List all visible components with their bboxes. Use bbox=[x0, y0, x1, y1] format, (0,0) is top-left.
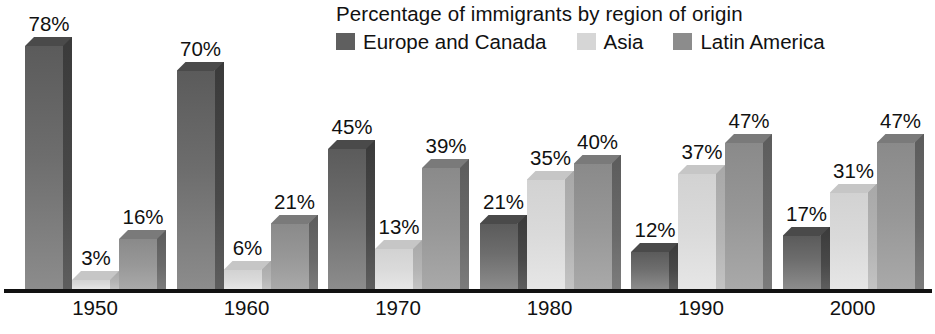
bar-value-label: 37% bbox=[674, 141, 730, 163]
bar[interactable]: 6% bbox=[224, 261, 271, 289]
bar[interactable]: 31% bbox=[830, 184, 877, 289]
bar[interactable]: 16% bbox=[119, 230, 166, 289]
x-axis-tick-label: 1980 bbox=[470, 296, 630, 320]
bar-front-face bbox=[119, 239, 157, 289]
bar-front-face bbox=[830, 193, 868, 289]
bar-side-face bbox=[915, 134, 924, 289]
legend-item-label: Latin America bbox=[700, 30, 824, 53]
bar-value-label: 78% bbox=[21, 13, 77, 35]
bar[interactable]: 78% bbox=[25, 37, 72, 289]
bar-front-face bbox=[271, 224, 309, 289]
bar-side-face bbox=[763, 134, 772, 289]
bar-side-face bbox=[518, 215, 527, 289]
bar-side-face bbox=[565, 171, 574, 289]
x-axis-tick-label: 1990 bbox=[621, 296, 781, 320]
legend: Europe and CanadaAsiaLatin America bbox=[336, 30, 916, 53]
bar-front-face bbox=[877, 143, 915, 289]
bar-side-face bbox=[366, 140, 375, 289]
bar[interactable]: 45% bbox=[328, 140, 375, 289]
bar-side-face bbox=[157, 230, 166, 289]
x-axis-tick-label: 1970 bbox=[318, 296, 478, 320]
bar-front-face bbox=[72, 280, 110, 289]
legend-swatch-icon bbox=[336, 33, 355, 50]
bar[interactable]: 70% bbox=[177, 62, 224, 289]
bar-front-face bbox=[783, 236, 821, 289]
bar-value-label: 17% bbox=[779, 203, 835, 225]
bar-value-label: 3% bbox=[68, 247, 124, 269]
bar[interactable]: 47% bbox=[877, 134, 924, 289]
bar-side-face bbox=[612, 155, 621, 289]
bar[interactable]: 17% bbox=[783, 227, 830, 289]
bar-front-face bbox=[328, 149, 366, 289]
bar-value-label: 12% bbox=[627, 219, 683, 241]
legend-item[interactable]: Asia bbox=[577, 30, 644, 53]
bar-side-face bbox=[309, 215, 318, 289]
bar-front-face bbox=[177, 71, 215, 289]
bar-side-face bbox=[868, 184, 877, 289]
bar-value-label: 21% bbox=[476, 191, 532, 213]
bar-front-face bbox=[725, 143, 763, 289]
chart-legend-block: Percentage of immigrants by region of or… bbox=[336, 2, 916, 53]
bar-side-face bbox=[821, 227, 830, 289]
bar-front-face bbox=[527, 180, 565, 289]
bar-front-face bbox=[480, 224, 518, 289]
bar[interactable]: 21% bbox=[480, 215, 527, 289]
bar[interactable]: 35% bbox=[527, 171, 574, 289]
bar-value-label: 21% bbox=[267, 191, 323, 213]
legend-item[interactable]: Europe and Canada bbox=[336, 30, 547, 53]
bar-value-label: 31% bbox=[826, 160, 882, 182]
legend-item-label: Asia bbox=[604, 30, 644, 53]
bar-value-label: 6% bbox=[220, 237, 276, 259]
bar[interactable]: 40% bbox=[574, 155, 621, 289]
bar[interactable]: 21% bbox=[271, 215, 318, 289]
chart-title: Percentage of immigrants by region of or… bbox=[336, 2, 916, 26]
bar-side-face bbox=[460, 159, 469, 289]
bar[interactable]: 13% bbox=[375, 240, 422, 289]
legend-swatch-icon bbox=[673, 33, 692, 50]
bar-front-face bbox=[25, 46, 63, 289]
bar-value-label: 40% bbox=[570, 131, 626, 153]
bar-chart: 78%3%16%70%6%21%45%13%39%21%35%40%12%37%… bbox=[0, 0, 935, 334]
x-axis-tick-label: 1960 bbox=[167, 296, 327, 320]
legend-item-label: Europe and Canada bbox=[363, 30, 547, 53]
bar-front-face bbox=[224, 270, 262, 289]
bar[interactable]: 47% bbox=[725, 134, 772, 289]
bar-value-label: 39% bbox=[418, 135, 474, 157]
bar[interactable]: 39% bbox=[422, 159, 469, 289]
x-axis-baseline bbox=[4, 289, 932, 293]
bar[interactable]: 3% bbox=[72, 271, 119, 289]
bar-value-label: 16% bbox=[115, 206, 171, 228]
bar[interactable]: 37% bbox=[678, 165, 725, 289]
bar[interactable]: 12% bbox=[631, 243, 678, 289]
bar-side-face bbox=[716, 165, 725, 289]
bar-value-label: 47% bbox=[873, 110, 929, 132]
bar-value-label: 47% bbox=[721, 110, 777, 132]
bar-front-face bbox=[678, 174, 716, 289]
bar-value-label: 70% bbox=[173, 38, 229, 60]
legend-swatch-icon bbox=[577, 33, 596, 50]
bar-front-face bbox=[574, 164, 612, 289]
bar-value-label: 45% bbox=[324, 116, 380, 138]
bar-value-label: 13% bbox=[371, 216, 427, 238]
x-axis-tick-label: 2000 bbox=[773, 296, 933, 320]
bar-front-face bbox=[375, 249, 413, 289]
x-axis-tick-label: 1950 bbox=[15, 296, 175, 320]
bar-front-face bbox=[422, 168, 460, 289]
bar-front-face bbox=[631, 252, 669, 289]
legend-item[interactable]: Latin America bbox=[673, 30, 824, 53]
